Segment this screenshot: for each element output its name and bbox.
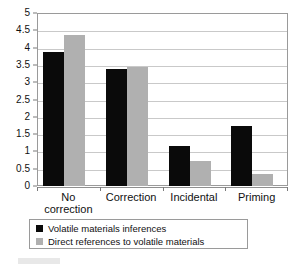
y-tick-label: 0.5 bbox=[16, 164, 30, 174]
legend-swatch-icon bbox=[36, 225, 43, 232]
y-tick-label: 3 bbox=[24, 77, 30, 87]
y-tick-label: 4.5 bbox=[16, 25, 30, 35]
gridline bbox=[38, 66, 287, 67]
gridline bbox=[38, 118, 287, 119]
legend-item: Volatile materials inferences bbox=[36, 223, 241, 234]
bar-chart-figure: 00.511.522.533.544.55 No correctionCorre… bbox=[0, 0, 303, 271]
y-tick-label: 2 bbox=[24, 112, 30, 122]
y-tick-label: 0 bbox=[24, 181, 30, 191]
gridline bbox=[38, 83, 287, 84]
plot-area bbox=[37, 13, 288, 186]
gridline bbox=[38, 49, 287, 50]
gridline bbox=[38, 31, 287, 32]
y-axis: 00.511.522.533.544.55 bbox=[0, 13, 37, 186]
gridline bbox=[38, 135, 287, 136]
gridline bbox=[38, 152, 287, 153]
legend-swatch-icon bbox=[36, 238, 43, 245]
y-tick-label: 4 bbox=[24, 43, 30, 53]
x-tick-label: No correction bbox=[37, 191, 100, 215]
chart-legend: Volatile materials inferences Direct ref… bbox=[29, 219, 248, 249]
y-tick-label: 5 bbox=[24, 8, 30, 18]
legend-item: Direct references to volatile materials bbox=[36, 236, 241, 247]
y-tick-label: 1 bbox=[24, 146, 30, 156]
y-tick-label: 2.5 bbox=[16, 95, 30, 105]
gridline bbox=[38, 170, 287, 171]
x-tick-mark bbox=[287, 187, 288, 191]
legend-item-label: Direct references to volatile materials bbox=[48, 236, 204, 247]
legend-item-label: Volatile materials inferences bbox=[48, 223, 166, 234]
x-tick-label: Priming bbox=[225, 191, 288, 203]
y-tick-label: 1.5 bbox=[16, 129, 30, 139]
gridline bbox=[38, 101, 287, 102]
y-tick-label: 3.5 bbox=[16, 60, 30, 70]
x-axis: No correctionCorrectionIncidentalPriming bbox=[37, 187, 288, 219]
scan-artifact bbox=[18, 258, 60, 264]
x-tick-label: Incidental bbox=[163, 191, 226, 203]
x-tick-label: Correction bbox=[100, 191, 163, 203]
